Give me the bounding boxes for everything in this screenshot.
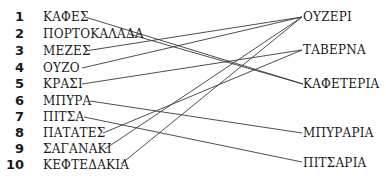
item-number: 5: [0, 76, 24, 91]
item-number: 2: [0, 26, 24, 41]
item-number: 1: [0, 9, 24, 24]
left-item-label: ΠΟΡΤΟΚΑΛΑΔΑ: [43, 27, 144, 41]
line-7-pitsaria: [84, 117, 302, 162]
item-number: 9: [0, 141, 24, 156]
left-item-label: ΜΕΖΕΣ: [43, 44, 91, 58]
item-number: 8: [0, 125, 24, 140]
left-item-label: ΣΑΓΑΝΑΚΙ: [43, 142, 112, 156]
right-item-label: ΤΑΒΕΡΝΑ: [303, 43, 366, 57]
item-number: 10: [0, 157, 24, 172]
item-number: 7: [0, 109, 24, 124]
left-item-label: ΠΙΤΣΑ: [43, 110, 84, 124]
right-item-label: ΚΑΦΕΤΕΡΙΑ: [303, 77, 379, 91]
line-4-ouzeri: [82, 17, 302, 68]
left-item-label: ΠΑΤΑΤΕΣ: [43, 126, 105, 140]
item-number: 4: [0, 60, 24, 75]
right-item-label: ΟΥΖΕΡΙ: [303, 10, 352, 24]
line-5-taverna: [82, 50, 302, 84]
right-item-label: ΠΙΤΣΑΡΙΑ: [303, 156, 366, 170]
left-item-label: ΟΥΖΟ: [43, 61, 80, 75]
right-item-label: ΜΠΥΡΑΡΙΑ: [303, 126, 374, 140]
left-item-label: ΚΕΦΤΕΔΑΚΙΑ: [43, 158, 129, 172]
item-number: 6: [0, 93, 24, 108]
line-6-mpyraria: [90, 101, 302, 133]
line-8-taverna: [103, 50, 302, 133]
left-item-label: ΚΑΦΕΣ: [43, 10, 89, 24]
line-2-kafeteria: [129, 34, 303, 84]
left-item-label: ΚΡΑΣΙ: [43, 77, 83, 91]
item-number: 3: [0, 43, 24, 58]
left-item-label: ΜΠΥΡΑ: [43, 94, 91, 108]
